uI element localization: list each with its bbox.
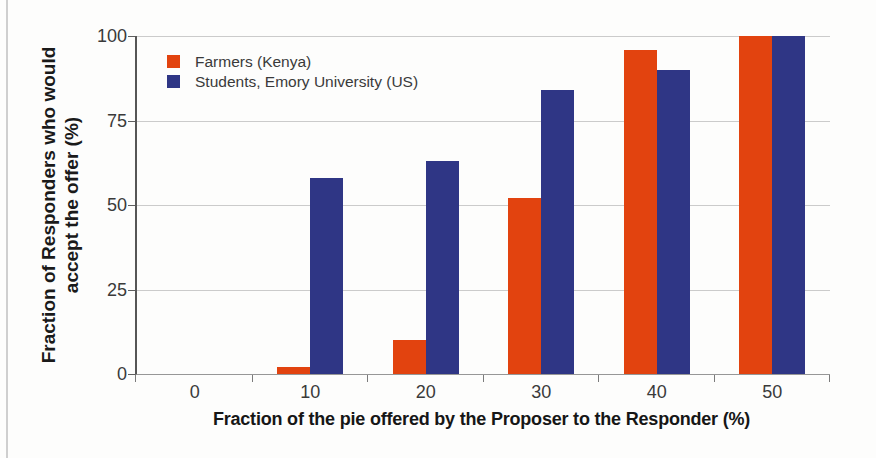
x-axis-title: Fraction of the pie offered by the Propo… [135,409,828,430]
x-tick-6 [829,375,830,382]
y-tick-50 [128,205,135,206]
bar-students-10 [310,178,343,374]
x-tick-2 [367,375,368,382]
y-tick-0 [128,374,135,375]
bar-farmers-20 [393,340,426,374]
x-tick-1 [252,375,253,382]
y-axis-title-line1: Fraction of Responders who would [37,47,60,364]
y-tick-label-0: 0 [85,364,127,384]
x-tick-0 [135,375,136,382]
x-tick-label-20: 20 [386,382,466,402]
bar-farmers-40 [624,50,657,374]
x-tick-label-30: 30 [501,382,581,402]
bar-students-40 [657,70,690,374]
legend-item-farmers: Farmers (Kenya) [167,53,418,70]
gridline-50 [137,205,830,206]
scan-page-edge [6,0,8,458]
bar-students-50 [772,36,805,374]
farmers-legend-swatch [167,55,180,68]
y-tick-label-50: 50 [85,195,127,215]
bar-students-30 [541,90,574,374]
x-tick-4 [598,375,599,382]
gridline-100 [137,36,830,37]
x-tick-5 [714,375,715,382]
farmers-legend-label: Farmers (Kenya) [195,53,311,70]
legend: Farmers (Kenya) Students, Emory Universi… [167,53,418,93]
students-legend-swatch [167,75,180,88]
y-tick-75 [128,121,135,122]
y-axis-title: Fraction of Responders who would accept … [37,47,83,364]
legend-item-students: Students, Emory University (US) [167,73,418,90]
x-tick-label-0: 0 [155,382,235,402]
gridline-25 [137,290,830,291]
y-tick-label-25: 25 [85,280,127,300]
y-tick-100 [128,36,135,37]
x-tick-label-10: 10 [270,382,350,402]
x-tick-3 [483,375,484,382]
ultimatum-game-acceptance-chart: Fraction of Responders who would accept … [0,0,876,458]
gridline-75 [137,121,830,122]
y-tick-label-75: 75 [85,111,127,131]
x-tick-label-40: 40 [617,382,697,402]
y-tick-label-100: 100 [85,26,127,46]
x-tick-label-50: 50 [732,382,812,402]
bar-farmers-30 [508,198,541,374]
y-axis-title-line2: accept the offer (%) [60,47,83,364]
y-tick-25 [128,290,135,291]
students-legend-label: Students, Emory University (US) [195,73,418,90]
bar-students-20 [426,161,459,374]
bar-farmers-10 [277,367,310,374]
bar-farmers-50 [739,36,772,374]
